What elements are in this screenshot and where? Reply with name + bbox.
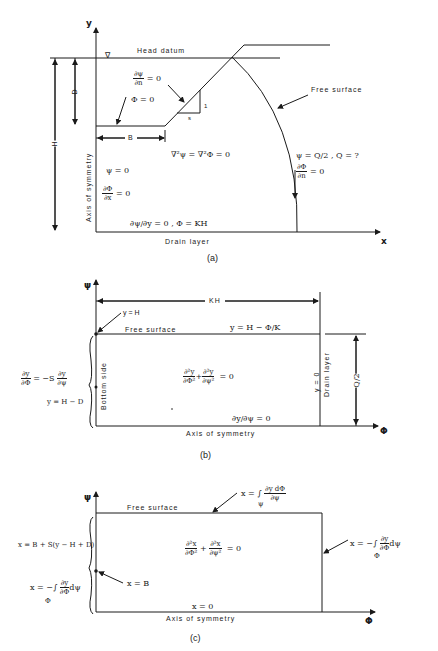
axis-symmetry-label-b: Axis of symmetry bbox=[186, 430, 255, 437]
caption-c: (c) bbox=[190, 633, 201, 643]
caption-b: (b) bbox=[200, 450, 211, 460]
free-surface-psi-bc: ψ = Q/2 , Q = ? bbox=[296, 151, 359, 160]
y-eq-H-label: y = H bbox=[123, 309, 140, 316]
caption-a: (a) bbox=[207, 253, 218, 263]
axis-phi-label-c: Φ bbox=[365, 616, 373, 626]
water-level-icon: ∇ bbox=[105, 51, 111, 60]
axis-symmetry-label-c: Axis of symmetry bbox=[166, 615, 235, 622]
drain-layer-label-b: Drain layer bbox=[323, 352, 330, 397]
right-eq-c: x = −∫ ∂y∂Φdψ bbox=[350, 535, 401, 552]
laplace-eq-b: ∂²y∂Φ²+∂²y∂ψ² = 0 bbox=[183, 368, 234, 385]
dim-Q2-label: Q/2 bbox=[352, 373, 361, 387]
slope-rise-label: 1 bbox=[204, 103, 208, 109]
axis-x-label-a: x bbox=[381, 236, 387, 246]
right-y0-label: y = 0 bbox=[313, 372, 320, 392]
drain-layer-label-a: Drain layer bbox=[165, 238, 210, 245]
laplace-eq-a: ∇²ψ = ∇²Φ = 0 bbox=[171, 150, 230, 159]
left-bc2-b: y = H − D bbox=[47, 398, 83, 406]
free-surface-label-b: Free surface bbox=[125, 326, 176, 333]
slope-bc-phi: Φ = 0 bbox=[131, 95, 154, 104]
free-surface-dphi-bc: ∂Φ∂n = 0 bbox=[296, 163, 324, 180]
bottom-bc-b: ∂y/∂ψ = 0 bbox=[232, 414, 271, 423]
axis-y-label-a: y bbox=[86, 18, 92, 28]
head-datum-label: Head datum bbox=[137, 47, 185, 54]
dim-H-label: H bbox=[51, 140, 58, 146]
axis-bc-dphi: ∂Φ∂x = 0 bbox=[102, 185, 130, 202]
left-eq2-c: x = −∫ ∂y∂Φdψ bbox=[30, 579, 81, 596]
left-eq1-c: x = B + S(y − H + D) bbox=[18, 541, 94, 549]
right-eq-sub-c: Φ bbox=[374, 552, 380, 560]
dim-KH-label: KH bbox=[205, 297, 225, 304]
left-bc-b: ∂y∂Φ = −S ∂y∂ψ bbox=[21, 370, 67, 387]
left-eq2-sub-c: Φ bbox=[45, 597, 51, 605]
dim-D-label: D bbox=[71, 88, 78, 94]
top-eq-sub-c: ψ bbox=[258, 500, 264, 508]
slope-run-label: s bbox=[188, 115, 192, 121]
axis-phi-label-b: Φ bbox=[380, 426, 388, 436]
bottom-bc-a: ∂ψ/∂y = 0 , Φ = KH bbox=[130, 219, 208, 228]
free-surface-eq-b: y = H − Φ/K bbox=[230, 323, 280, 332]
laplace-eq-c: ∂²x∂Φ² + ∂²x∂ψ² = 0 bbox=[185, 540, 241, 557]
axis-psi-label-c: ψ bbox=[84, 492, 91, 502]
axis-psi-label-b: ψ bbox=[84, 280, 91, 290]
dim-B-label: B bbox=[125, 134, 137, 141]
x-eq-B-label: x = B bbox=[127, 579, 149, 588]
slope-bc-psi: ∂ψ∂n = 0 bbox=[133, 70, 161, 87]
axis-symmetry-label-a: Axis of symmetry bbox=[85, 153, 92, 222]
free-surface-label-c: Free surface bbox=[127, 504, 178, 511]
bottom-bc-c: x = 0 bbox=[192, 602, 213, 611]
axis-bc-psi: ψ = 0 bbox=[106, 166, 129, 175]
free-surface-label-a: Free surface bbox=[311, 86, 362, 93]
bottom-side-label: Bottom side bbox=[100, 362, 107, 410]
